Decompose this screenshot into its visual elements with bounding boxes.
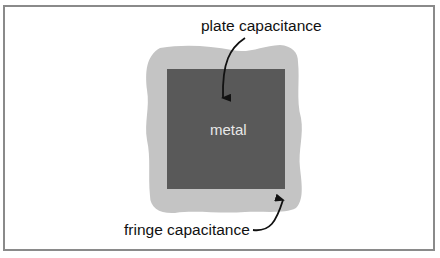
metal-label: metal xyxy=(210,122,247,137)
plate-capacitance-label: plate capacitance xyxy=(201,18,322,34)
fringe-capacitance-label: fringe capacitance xyxy=(124,222,250,238)
